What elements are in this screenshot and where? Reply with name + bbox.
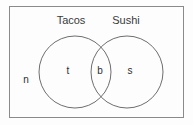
venn-diagram-figure: Tacos Sushi n t b s xyxy=(0,0,193,125)
region-label-tacos-only: t xyxy=(67,65,70,76)
region-label-sushi-only: s xyxy=(128,65,133,76)
region-label-outside: n xyxy=(23,74,29,85)
venn-diagram-canvas: Tacos Sushi n t b s xyxy=(0,0,193,125)
set-label-sushi: Sushi xyxy=(112,14,140,26)
set-label-tacos: Tacos xyxy=(57,14,86,26)
region-label-intersection: b xyxy=(97,65,103,76)
